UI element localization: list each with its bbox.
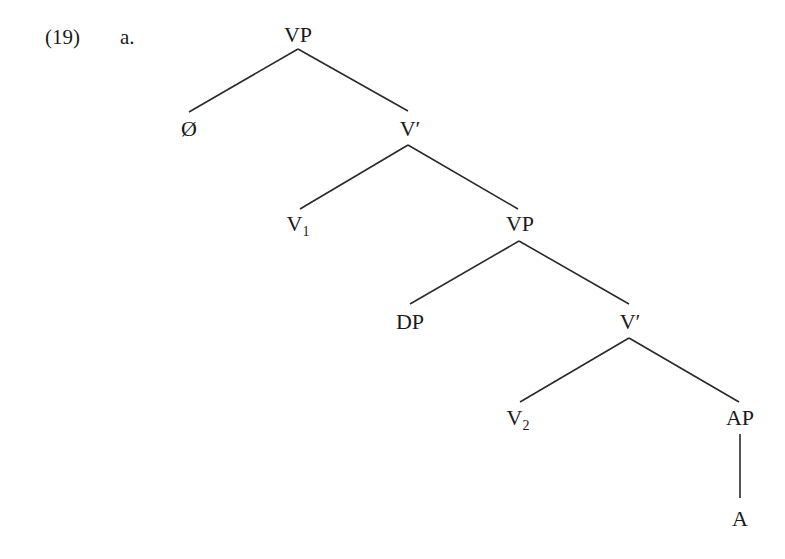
tree-edge-vbar2-ap (629, 338, 739, 402)
tree-edge-vbar1-vp2 (408, 145, 518, 209)
tree-edge-vp2-dp (410, 241, 519, 304)
tree-edge-vbar2-v2 (520, 338, 629, 402)
tree-node-dp: DP (396, 311, 424, 333)
node-label: V (287, 211, 303, 236)
node-label: Ø (181, 116, 197, 141)
node-subscript: 2 (522, 418, 529, 433)
tree-node-v2: V2 (507, 407, 530, 429)
tree-edge-vp1-vbar1 (298, 49, 408, 111)
tree-edge-vp2-vbar2 (519, 241, 629, 304)
tree-node-v1: V1 (287, 213, 310, 235)
tree-node-ap: AP (726, 407, 754, 429)
node-label: V′ (400, 116, 421, 141)
tree-edges (0, 0, 785, 559)
tree-node-null: Ø (181, 118, 197, 140)
node-label: V (507, 405, 523, 430)
node-label: V′ (620, 309, 641, 334)
tree-node-vbar2: V′ (620, 311, 641, 333)
node-label: AP (726, 405, 754, 430)
node-subscript: 1 (302, 224, 309, 239)
tree-node-vp2: VP (506, 213, 534, 235)
node-label: DP (396, 309, 424, 334)
tree-edge-vbar1-v1 (300, 145, 408, 209)
tree-node-a: A (732, 508, 748, 530)
tree-node-vbar1: V′ (400, 118, 421, 140)
tree-edge-vp1-null (189, 49, 298, 112)
tree-node-vp1: VP (284, 24, 312, 46)
node-label: VP (284, 22, 312, 47)
node-label: VP (506, 211, 534, 236)
node-label: A (732, 506, 748, 531)
